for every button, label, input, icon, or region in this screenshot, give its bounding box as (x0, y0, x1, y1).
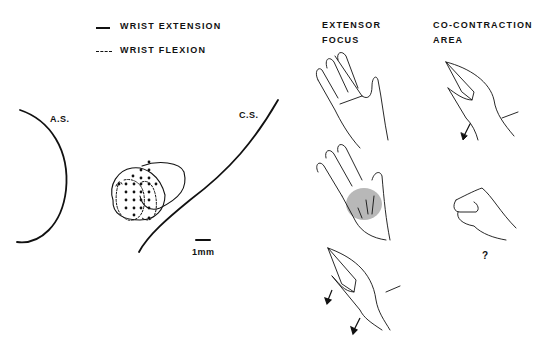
open-hand-drawing (316, 53, 388, 148)
extensor-focus-shading (346, 188, 382, 220)
stimulation-sites (118, 161, 158, 220)
extension-region-outline (140, 163, 185, 210)
figure-drawing (0, 0, 550, 345)
arcuate-sulcus-curve (17, 110, 67, 242)
arrow-icons (325, 290, 360, 334)
central-sulcus-curve (139, 100, 278, 252)
cocontraction-hand-drawing (446, 62, 518, 140)
pointing-hand-drawing (328, 248, 400, 330)
fist-drawing (454, 188, 516, 240)
